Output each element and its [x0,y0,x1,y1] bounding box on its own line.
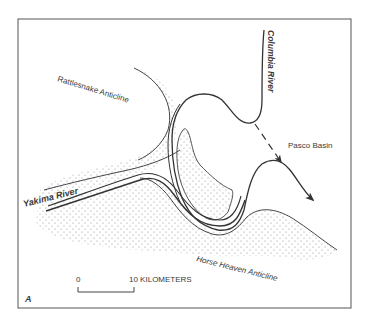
map-figure: Columbia River Rattlesnake Anticline Pas… [0,0,365,324]
scale-bar-end-label: 10 KILOMETERS [129,275,192,284]
scale-bar-start-label: 0 [76,275,81,284]
label-columbia-river: Columbia River [266,30,276,93]
label-pasco-basin: Pasco Basin [288,141,332,150]
panel-letter: A [24,294,32,304]
